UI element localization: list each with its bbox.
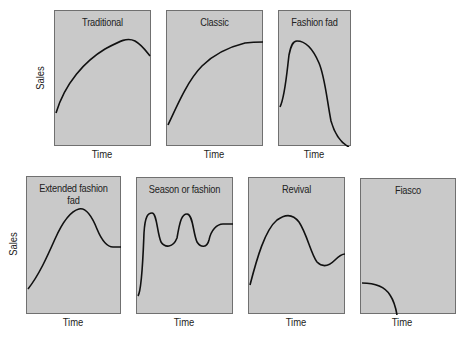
panel-title: Season or fashion <box>143 183 227 195</box>
x-axis-label: Time <box>269 316 323 328</box>
x-axis-label: Time <box>75 148 129 160</box>
curve-season-or-fashion <box>137 178 234 315</box>
y-axis-label-bottom: Sales <box>7 226 19 262</box>
curve-fiasco <box>361 179 457 315</box>
x-axis-label: Time <box>46 316 100 328</box>
panel-traditional: Traditional <box>54 10 151 146</box>
x-axis-label: Time <box>187 148 241 160</box>
panel-revival: Revival <box>248 177 345 314</box>
y-axis-label-top: Sales <box>34 60 46 96</box>
panel-title: Traditional <box>61 16 145 28</box>
panel-title: Revival <box>255 183 339 195</box>
panel-extended-fashion-fad: Extended fashion fad <box>26 176 121 314</box>
panel-season-or-fashion: Season or fashion <box>136 177 233 314</box>
x-axis-label: Time <box>157 316 211 328</box>
panel-fashion-fad: Fashion fad <box>278 10 351 146</box>
curve-fashion-fad <box>279 11 352 147</box>
panel-classic: Classic <box>166 10 263 146</box>
panel-title: Extended fashion fad <box>33 182 115 206</box>
panel-title: Fiasco <box>367 184 450 196</box>
curve-traditional <box>55 11 152 147</box>
x-axis-label: Time <box>375 316 429 328</box>
x-axis-label: Time <box>287 148 341 160</box>
panel-title: Fashion fad <box>283 16 345 28</box>
curve-classic <box>167 11 264 147</box>
panel-title: Classic <box>173 16 257 28</box>
panel-fiasco: Fiasco <box>360 178 456 314</box>
curve-revival <box>249 178 346 315</box>
